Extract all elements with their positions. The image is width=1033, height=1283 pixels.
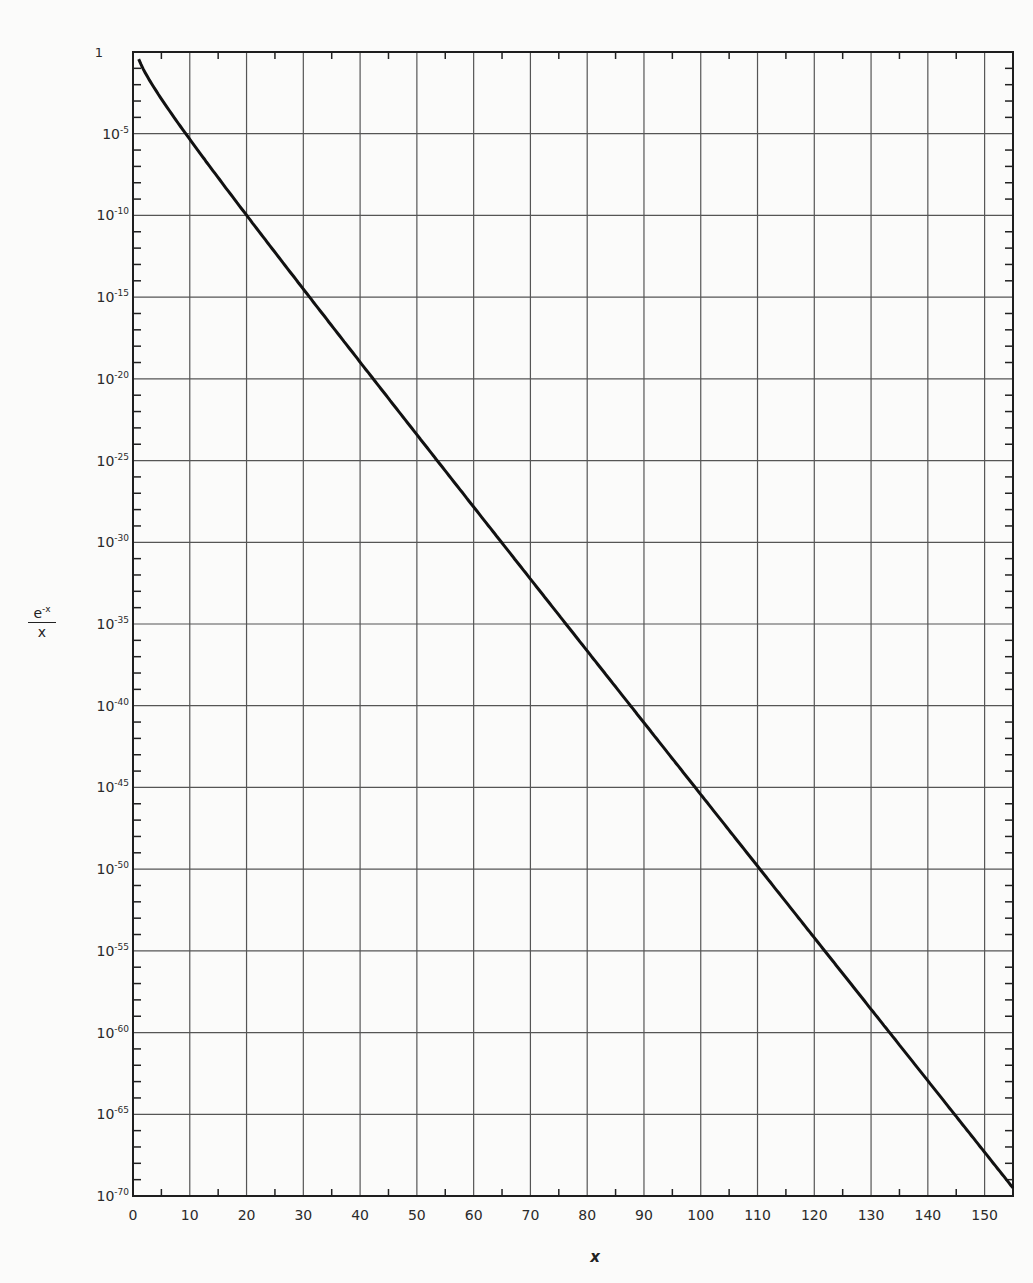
y-tick-label: 10-50 xyxy=(96,860,129,877)
y-tick-label: 10-40 xyxy=(96,697,129,714)
y-tick-label: 10-45 xyxy=(96,778,129,795)
y-tick-label: 10-15 xyxy=(96,288,129,305)
y-tick-label: 10-30 xyxy=(96,533,129,550)
y-axis-title: e-x x xyxy=(28,605,56,639)
y-tick-label: 10-10 xyxy=(96,206,129,223)
y-tick-label: 10-35 xyxy=(96,615,129,632)
y-axis-title-denominator: x xyxy=(28,623,56,639)
y-tick-label: 10-70 xyxy=(96,1187,129,1204)
x-tick-label: 90 xyxy=(635,1207,653,1223)
grid-lines xyxy=(133,52,1013,1196)
chart-canvas: 110-510-1010-1510-2010-2510-3010-3510-40… xyxy=(0,0,1033,1283)
x-tick-label: 110 xyxy=(744,1207,771,1223)
x-tick-label: 120 xyxy=(801,1207,828,1223)
x-tick-labels: 0102030405060708090100110120130140150 xyxy=(129,1207,998,1223)
y-tick-label: 10-25 xyxy=(96,452,129,469)
y-tick-label: 10-65 xyxy=(96,1105,129,1122)
y-tick-label: 10-20 xyxy=(96,370,129,387)
y-axis-title-numerator: e-x xyxy=(28,605,56,623)
x-tick-label: 40 xyxy=(351,1207,369,1223)
x-axis-title: x xyxy=(589,1248,601,1266)
x-tick-label: 50 xyxy=(408,1207,426,1223)
y-tick-label: 10-55 xyxy=(96,942,129,959)
x-tick-label: 150 xyxy=(971,1207,998,1223)
x-tick-label: 140 xyxy=(914,1207,941,1223)
y-tick-label: 10-5 xyxy=(102,125,129,142)
y-tick-label: 1 xyxy=(95,45,103,60)
x-tick-label: 70 xyxy=(522,1207,540,1223)
y-tick-labels: 110-510-1010-1510-2010-2510-3010-3510-40… xyxy=(95,45,130,1204)
x-tick-label: 0 xyxy=(129,1207,138,1223)
x-tick-label: 60 xyxy=(465,1207,483,1223)
x-tick-label: 130 xyxy=(858,1207,885,1223)
x-tick-label: 30 xyxy=(294,1207,312,1223)
y-tick-label: 10-60 xyxy=(96,1024,129,1041)
x-tick-label: 10 xyxy=(181,1207,199,1223)
x-tick-label: 100 xyxy=(687,1207,714,1223)
x-tick-label: 80 xyxy=(578,1207,596,1223)
x-tick-label: 20 xyxy=(238,1207,256,1223)
